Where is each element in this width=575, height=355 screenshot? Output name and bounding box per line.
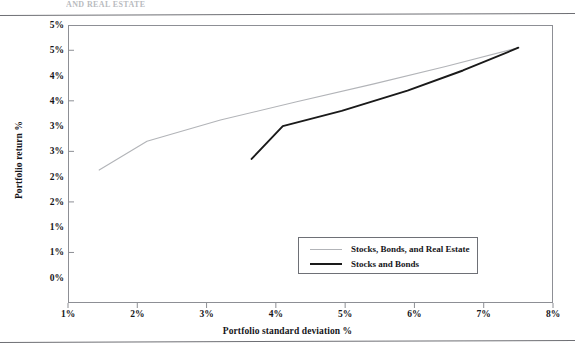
y-tick-label: 2% xyxy=(24,197,64,207)
series-line xyxy=(99,48,518,170)
x-tick-label: 7% xyxy=(469,309,499,319)
y-tick-label: 2% xyxy=(24,172,64,182)
legend-swatch-icon xyxy=(310,249,342,250)
y-tick-label: 1% xyxy=(24,247,64,257)
legend-item: Stocks and Bonds xyxy=(299,257,477,271)
efficient-frontier-chart: 5%5%4%4%3%3%2%2%1%1%0% 1%2%3%4%5%6%7%8% … xyxy=(0,0,575,355)
x-tick-label: 2% xyxy=(122,309,152,319)
y-axis-ticks xyxy=(68,50,74,252)
y-tick-label: 3% xyxy=(24,121,64,131)
y-tick-label: 0% xyxy=(24,273,64,283)
legend-swatch-icon xyxy=(310,263,342,265)
x-tick-label: 1% xyxy=(53,309,83,319)
y-tick-label-group: 5%5%4%4%3%3%2%2%1%1%0% xyxy=(20,0,64,320)
y-tick-label: 4% xyxy=(24,96,64,106)
legend-label: Stocks, Bonds, and Real Estate xyxy=(351,244,470,254)
chart-legend: Stocks, Bonds, and Real Estate Stocks an… xyxy=(298,237,478,274)
x-tick-label: 5% xyxy=(330,309,360,319)
x-tick-label: 4% xyxy=(261,309,291,319)
series-lines xyxy=(99,48,518,170)
y-tick-label: 5% xyxy=(24,45,64,55)
x-axis-ticks xyxy=(68,303,553,308)
y-tick-label: 1% xyxy=(24,222,64,232)
y-tick-label: 4% xyxy=(24,71,64,81)
y-axis-title: Portfolio return % xyxy=(14,95,24,225)
y-tick-label: 5% xyxy=(24,20,64,30)
y-tick-label: 3% xyxy=(24,146,64,156)
legend-item: Stocks, Bonds, and Real Estate xyxy=(299,242,477,256)
x-axis-title: Portfolio standard deviation % xyxy=(0,326,575,336)
x-tick-label: 8% xyxy=(538,309,568,319)
x-tick-label-group: 1%2%3%4%5%6%7%8% xyxy=(0,309,575,323)
x-tick-label: 6% xyxy=(399,309,429,319)
chart-canvas xyxy=(0,0,575,355)
legend-label: Stocks and Bonds xyxy=(351,259,419,269)
x-tick-label: 3% xyxy=(192,309,222,319)
